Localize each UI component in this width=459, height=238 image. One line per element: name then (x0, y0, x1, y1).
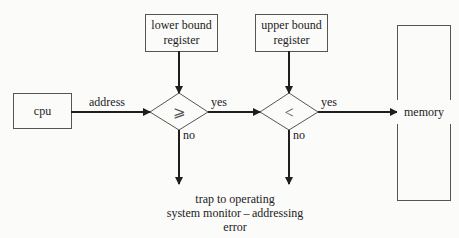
gte-text: ⩾ (173, 105, 186, 120)
trap-label: trap to operating system monitor – addre… (150, 190, 320, 235)
memory-text: memory (404, 105, 444, 120)
trap-line1: trap to operating (195, 192, 274, 206)
trap-line3: error (223, 220, 246, 234)
no2-label: no (293, 128, 305, 142)
trap-line2: system monitor – addressing (167, 206, 303, 220)
lower-bound-label: lower bound register (145, 14, 218, 52)
yes1-label: yes (211, 95, 227, 109)
address-label: address (89, 95, 125, 109)
upper-bound-label: upper bound register (255, 14, 328, 52)
upper-bound-line1: upper bound (261, 18, 321, 33)
lt-text: < (284, 105, 293, 120)
upper-bound-line2: register (274, 33, 310, 48)
no1-label: no (183, 128, 195, 142)
memory-label: memory (397, 100, 451, 124)
cpu-label: cpu (13, 93, 72, 129)
lt-symbol: < (275, 102, 303, 122)
gte-symbol: ⩾ (165, 102, 193, 122)
yes2-label: yes (321, 95, 337, 109)
cpu-text: cpu (34, 104, 51, 119)
lower-bound-line1: lower bound (151, 18, 211, 33)
lower-bound-line2: register (164, 33, 200, 48)
